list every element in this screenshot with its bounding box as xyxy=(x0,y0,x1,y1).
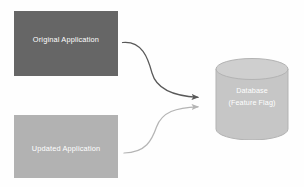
node-database-cylinder[interactable]: Database (Feature Flag) xyxy=(215,58,289,140)
database-label-line-2: (Feature Flag) xyxy=(215,98,289,107)
diagram-canvas: Original Application Updated Application… xyxy=(0,0,304,187)
cylinder-top-ellipse xyxy=(216,59,288,80)
node-updated-application[interactable]: Updated Application xyxy=(14,115,118,178)
node-original-application-label: Original Application xyxy=(33,36,99,45)
connector-updated-to-database xyxy=(124,107,198,153)
database-label-line-1: Database xyxy=(215,86,289,95)
node-original-application[interactable]: Original Application xyxy=(14,11,118,76)
connector-original-to-database xyxy=(123,42,199,97)
database-label-group: Database (Feature Flag) xyxy=(215,82,289,111)
node-updated-application-label: Updated Application xyxy=(32,145,101,154)
